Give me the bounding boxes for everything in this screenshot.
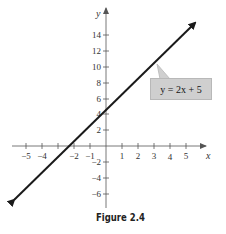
y-tick-labels: 14 12 10 8 6 4 2 −2 −4 −6 <box>91 30 101 199</box>
svg-text:8: 8 <box>97 78 102 88</box>
svg-text:2: 2 <box>97 125 102 135</box>
svg-text:−5: −5 <box>21 151 31 161</box>
svg-text:−2: −2 <box>91 157 101 167</box>
svg-text:6: 6 <box>97 94 102 104</box>
y-axis-label: y <box>95 8 101 19</box>
svg-text:14: 14 <box>92 30 102 40</box>
svg-text:−4: −4 <box>37 151 47 161</box>
callout-pointer <box>157 64 170 79</box>
svg-text:5: 5 <box>184 151 189 161</box>
svg-text:4: 4 <box>168 152 173 162</box>
line-graph: −5 −4 −2 −1 1 2 3 4 5 14 12 10 8 6 4 2 −… <box>0 0 226 234</box>
svg-text:−6: −6 <box>91 189 101 199</box>
svg-text:3: 3 <box>152 151 157 161</box>
svg-text:2: 2 <box>136 151 141 161</box>
svg-text:12: 12 <box>92 46 101 56</box>
svg-text:1: 1 <box>120 151 125 161</box>
x-tick-labels: −5 −4 −2 −1 1 2 3 4 5 <box>21 151 189 162</box>
figure-caption: Figure 2.4 <box>96 212 145 223</box>
svg-text:−4: −4 <box>91 173 101 183</box>
equation-callout: y = 2x + 5 <box>150 78 212 100</box>
svg-text:10: 10 <box>92 62 102 72</box>
line-y-2x-plus-5 <box>14 23 195 200</box>
svg-text:−2: −2 <box>69 151 79 161</box>
x-axis-label: x <box>205 150 211 161</box>
